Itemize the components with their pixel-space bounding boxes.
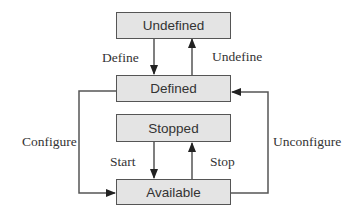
configure-arrow (79, 91, 116, 193)
state-diagram: Undefined Defined Stopped Available Defi… (0, 0, 356, 221)
unconfigure-label: Unconfigure (273, 135, 341, 149)
state-stopped: Stopped (116, 114, 231, 142)
state-defined-label: Defined (150, 81, 197, 96)
stop-label: Stop (210, 155, 235, 169)
state-undefined: Undefined (116, 12, 231, 39)
state-available: Available (116, 179, 231, 205)
start-label: Start (110, 155, 136, 169)
state-undefined-label: Undefined (143, 18, 205, 33)
configure-label: Configure (22, 135, 77, 149)
state-stopped-label: Stopped (148, 121, 198, 136)
unconfigure-arrow (231, 92, 268, 193)
undefine-label: Undefine (212, 50, 262, 64)
define-label: Define (102, 51, 139, 65)
state-defined: Defined (116, 75, 231, 102)
state-available-label: Available (146, 185, 201, 200)
